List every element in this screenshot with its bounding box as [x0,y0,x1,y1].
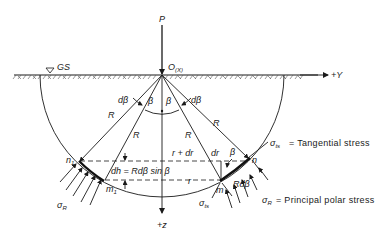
beta-label-left: β [147,96,153,106]
radius-label-left-inner: R [133,130,140,140]
beta-label-right: β [165,96,171,106]
r-plus-dr-label: r + dr [172,148,194,158]
origin-label: O(X) [168,62,183,73]
radius-label-right-outer: R [213,118,220,128]
legend-symbol-tangential: σts [270,138,280,149]
y-axis: +Y [300,70,343,80]
sigma-r-label-left: σR [57,200,67,211]
radius-label-left-outer: R [108,110,115,120]
load-p: P [159,14,165,74]
d-beta-label-right: dβ [191,95,201,105]
stress-bulb-diagram: GS +Y P O(X) +z R R R R β β dβ dβ [0,0,381,240]
legend-text-polar: = Principal polar stress [276,195,375,205]
ground-surface-label: GS [57,62,70,72]
point-n1-label: n1 [66,155,74,166]
y-axis-label: +Y [331,70,343,80]
legend: σts = Tangential stress σR = Principal p… [262,138,375,206]
element-boundary-left [79,161,104,181]
sigma-r-arrows-left [60,164,101,205]
legend-text-tangential: = Tangential stress [289,138,370,148]
r-label: r [188,176,192,186]
dh-formula-label: dh = Rdβ sin β [111,166,170,176]
sigma-ts-label-lower: σts [199,198,209,209]
dr-label: dr [211,148,220,158]
rd-beta-label: Rdβ [233,179,250,189]
d-beta-label-left: dβ [118,95,128,105]
ground-hatching [13,75,303,79]
load-label: P [159,14,165,24]
z-axis-label: +z [157,220,167,230]
radius-label-right-inner: R [185,130,192,140]
point-m1-label: m1 [106,184,117,195]
legend-symbol-polar: σR [262,195,272,206]
point-m-label: m [216,185,224,195]
ground-surface: GS [13,62,318,79]
ground-surface-marker-icon [46,68,54,73]
element-boundary-right [220,158,250,181]
radius-lines [80,75,268,180]
beta-label-element: β [229,147,235,157]
